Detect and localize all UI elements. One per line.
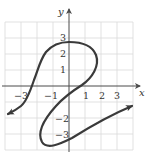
x-tick-label: −1 <box>44 90 58 101</box>
y-tick-label: −3 <box>55 129 69 140</box>
x-tick-label: 3 <box>114 90 120 101</box>
y-tick-label: 1 <box>60 64 66 75</box>
x-axis-label: x <box>139 87 145 98</box>
y-tick-label: 2 <box>60 48 66 59</box>
y-tick-label: −2 <box>55 113 69 124</box>
graph: y x −3 −1 1 2 3 3 2 1 −2 −3 <box>0 0 145 155</box>
x-tick-label: 1 <box>83 90 89 101</box>
x-tick-label: 2 <box>99 90 105 101</box>
y-axis-label: y <box>57 6 64 17</box>
